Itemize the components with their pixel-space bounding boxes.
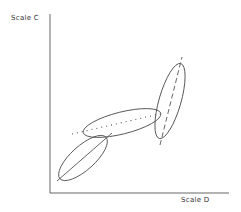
solid-axis-line xyxy=(57,133,112,181)
dotted-axis-line xyxy=(72,113,164,134)
ellipse-upper-right xyxy=(149,60,192,141)
diagram-canvas xyxy=(0,0,241,212)
ellipse-middle xyxy=(81,103,164,144)
